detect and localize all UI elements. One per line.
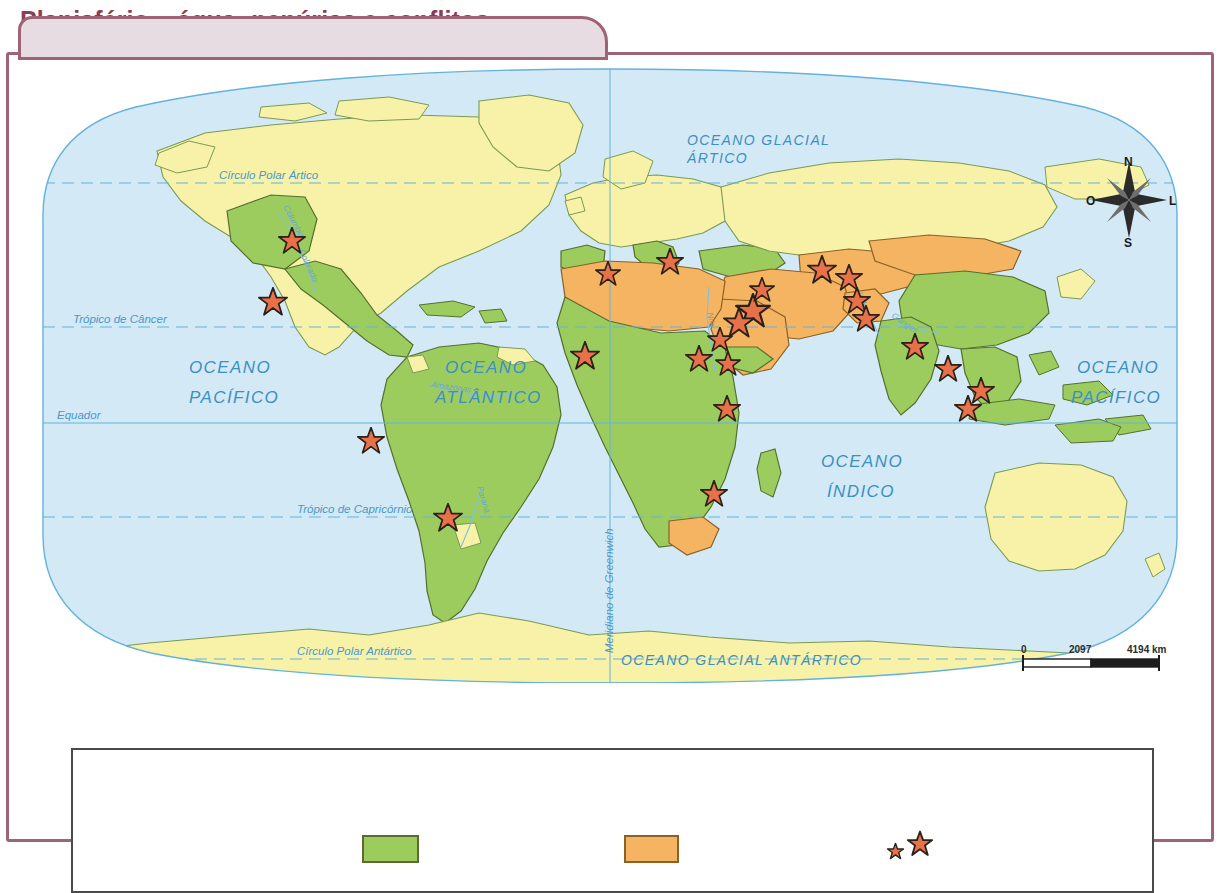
legend-orange-swatch xyxy=(624,835,679,863)
ocean-label-glacial-artico-line2: ÁRTICO xyxy=(686,150,748,166)
label-circulo-polar-antartico: Círculo Polar Antártico xyxy=(297,645,412,657)
label-tropico-de-cancer: Trópico de Câncer xyxy=(73,313,168,325)
compass-east-label: L xyxy=(1169,194,1176,208)
compass-west-label: O xyxy=(1086,194,1095,208)
scale-label-end: 4194 km xyxy=(1127,644,1167,655)
ocean-label-atlantico-line1: OCEANO xyxy=(445,358,527,377)
ocean-label-glacial-artico-line1: OCEANO GLACIAL xyxy=(687,132,830,148)
label-tropico-de-capricornio: Trópico de Capricórnio xyxy=(297,503,413,515)
ocean-label-pacifico-oeste-line1: OCEANO xyxy=(189,358,271,377)
ocean-label-indico-line1: OCEANO xyxy=(821,452,903,471)
map-frame: OCEANO GLACIAL ÁRTICO OCEANO PACÍFICO OC… xyxy=(6,52,1214,842)
compass-south-label: S xyxy=(1124,236,1132,250)
world-map: OCEANO GLACIAL ÁRTICO OCEANO PACÍFICO OC… xyxy=(9,55,1211,683)
ocean-label-pacifico-leste-line1: OCEANO xyxy=(1077,358,1159,377)
label-circulo-polar-artico: Círculo Polar Ártico xyxy=(219,169,319,181)
ocean-label-pacifico-leste-line2: PACÍFICO xyxy=(1071,388,1161,407)
label-equador: Equador xyxy=(57,409,102,421)
ocean-label-glacial-antartico: OCEANO GLACIAL ANTÁRTICO xyxy=(621,652,862,668)
compass-north-label: N xyxy=(1124,155,1133,169)
title-tab-mask xyxy=(22,50,604,57)
map-legend xyxy=(71,748,1154,893)
ocean-label-indico-line2: ÍNDICO xyxy=(827,482,895,501)
ocean-label-pacifico-oeste-line2: PACÍFICO xyxy=(189,388,279,407)
scale-label-middle: 2097 xyxy=(1069,644,1092,655)
legend-green-swatch xyxy=(362,835,419,863)
legend-star-symbols xyxy=(885,827,945,867)
label-meridiano-de-greenwich: Meridiano de Greenwich xyxy=(603,528,615,653)
scale-label-start: 0 xyxy=(1021,644,1027,655)
